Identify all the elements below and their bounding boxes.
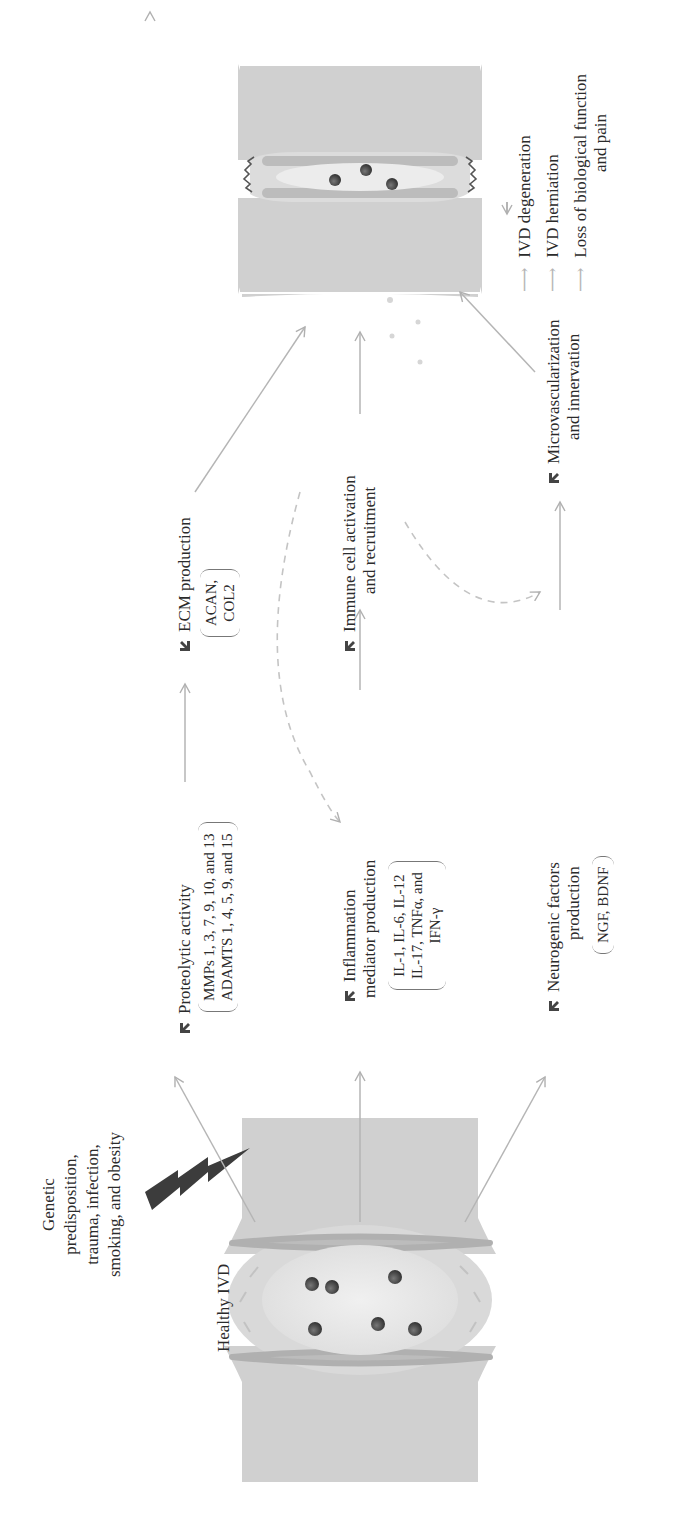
ivd-degeneration-diagram: Healthy IVD Genetic predisposition, trau… (0, 0, 696, 1532)
arrow-icon: ⟶ (515, 268, 534, 292)
arrow-icon: ⟶ (543, 268, 562, 292)
nucleus-pulposus (262, 1245, 458, 1355)
arrow-icon: ⟶ (571, 268, 590, 292)
immune-cell-label: Immune cell activation and recruitment (340, 475, 380, 652)
outcome-degeneration: ⟶IVD degeneration (515, 2, 543, 292)
inflammation-mediator-label: Inflammation mediator production (340, 860, 380, 1002)
feedback-arrows (277, 492, 540, 822)
healthy-ivd-label: Healthy IVD (214, 1264, 234, 1352)
degenerated-ivd-illustration (238, 64, 482, 365)
ecm-production-label: ECM production (175, 517, 195, 652)
proteolytic-activity-label: Proteolytic activity (175, 884, 195, 1034)
increase-arrow-icon (344, 990, 356, 1002)
risk-factors-label: Genetic predisposition, trauma, infectio… (38, 1132, 126, 1277)
outcome-loss-of-function: ⟶Loss of biological function and pain (571, 2, 611, 292)
increase-arrow-icon (548, 472, 560, 484)
ecm-details: ACAN, COL2 (200, 569, 240, 637)
outcome-herniation: ⟶IVD herniation (543, 2, 571, 292)
proteolytic-details: MMPs 1, 3, 7, 9, 10, and 13 ADAMTS 1, 4,… (198, 822, 238, 1012)
outcomes: ⟶IVD degeneration ⟶IVD herniation ⟶Loss … (515, 2, 611, 292)
lightning-bolt-icon (145, 1148, 250, 1210)
decrease-arrow-icon (179, 640, 191, 652)
microvascularization-label: Microvascularization and innervation (544, 320, 584, 484)
increase-arrow-icon (548, 1000, 560, 1012)
neurogenic-details: NGF, BDNF (592, 856, 614, 954)
increase-arrow-icon (179, 1022, 191, 1034)
increase-arrow-icon (344, 640, 356, 652)
inflammation-details: IL-1, IL-6, IL-12 IL-17, TNFα, and IFN-γ (388, 861, 446, 990)
neurogenic-factors-label: Neurogenic factors production (544, 862, 584, 1012)
